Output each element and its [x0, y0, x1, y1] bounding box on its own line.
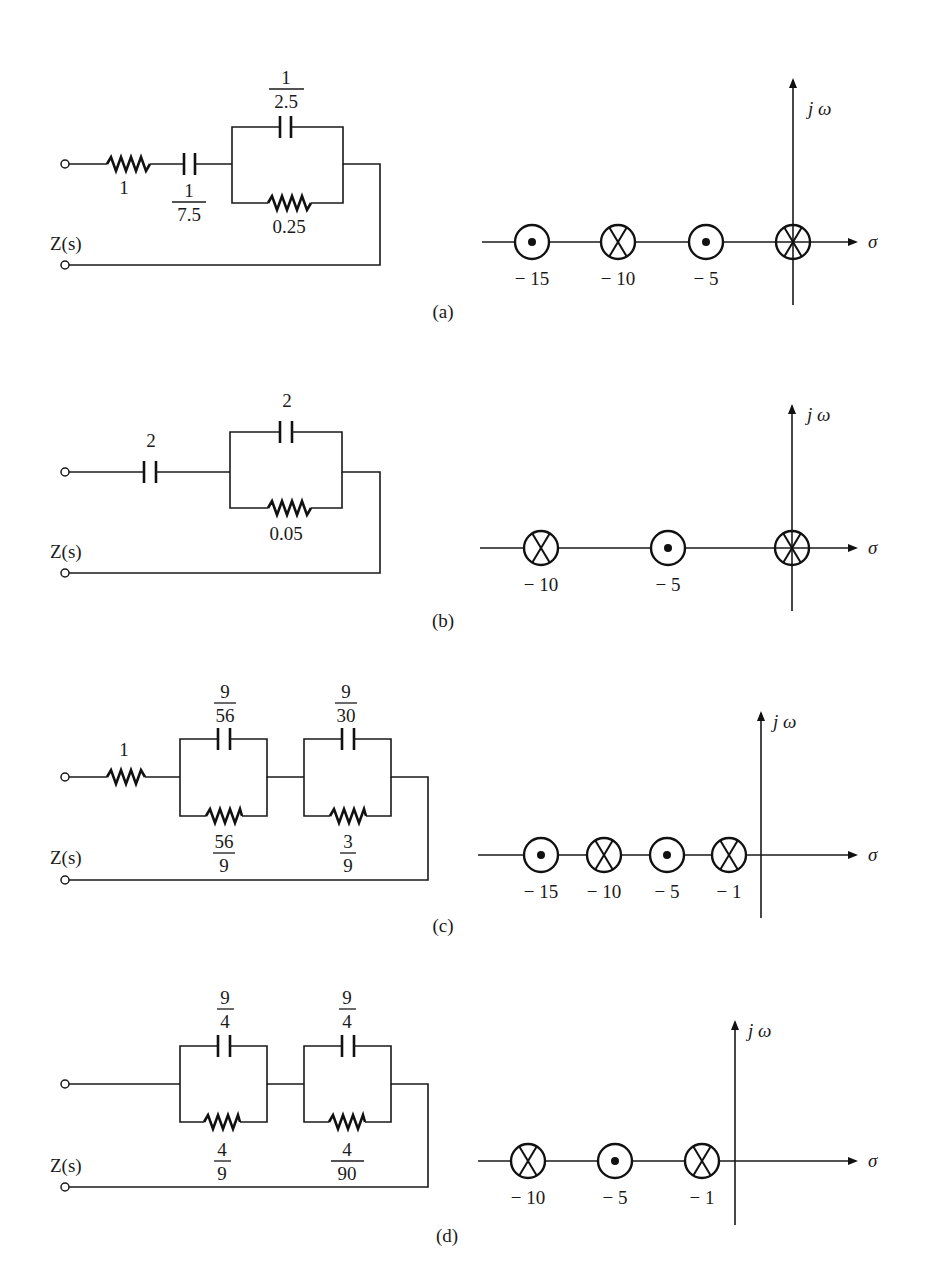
real-axis-label: σ	[868, 844, 878, 865]
resistor-icon	[268, 196, 311, 210]
terminal-icon	[61, 261, 69, 269]
pole-zero-plot-b: j ω σ − 10 − 5	[480, 404, 878, 611]
capacitor-2-den: 4	[342, 1011, 352, 1032]
pole-marker	[511, 1144, 545, 1178]
figure-canvas: 1 1 7.5 1 2.5 0.25 Z(s) j ω σ − 15 − 10 …	[0, 0, 926, 1272]
pole-marker	[587, 838, 621, 872]
capacitor-2-num: 9	[342, 987, 352, 1008]
terminal-icon	[61, 1183, 69, 1191]
tick-label: − 1	[690, 1187, 715, 1208]
circuit-c: 1 9 56 9 30 56 9 3 9 Z(s)	[50, 681, 428, 884]
imag-axis-label: j ω	[805, 98, 831, 119]
resistor-icon	[107, 770, 145, 784]
resistor-1-num: 4	[217, 1139, 227, 1160]
pole-marker	[601, 225, 635, 259]
impedance-label: Z(s)	[50, 847, 82, 869]
resistor-icon	[329, 1115, 365, 1129]
part-c: 1 9 56 9 30 56 9 3 9 Z(s) j ω σ − 15 − 1…	[50, 681, 878, 937]
resistor-2-num: 3	[343, 831, 353, 852]
resistor-icon	[204, 1115, 240, 1129]
pole-marker	[712, 838, 746, 872]
terminal-icon	[61, 773, 69, 781]
caption-c: (c)	[432, 915, 453, 937]
impedance-label: Z(s)	[50, 233, 82, 255]
terminal-icon	[61, 876, 69, 884]
parallel-resistor-value: 0.05	[269, 523, 302, 544]
pole-zero-plot-d: j ω σ − 10 − 5 − 1	[478, 1020, 878, 1225]
tick-label: − 10	[601, 268, 635, 289]
parallel-capacitor-den: 2.5	[274, 91, 298, 112]
tick-label: − 15	[515, 268, 549, 289]
capacitor-2-den: 30	[337, 705, 356, 726]
caption-a: (a)	[432, 301, 453, 323]
zero-marker	[524, 838, 558, 872]
zero-marker	[598, 1144, 632, 1178]
series-resistor-value: 1	[119, 739, 129, 760]
tick-label: − 5	[655, 881, 680, 902]
capacitor-1-num: 9	[220, 987, 230, 1008]
tick-label: − 10	[524, 574, 558, 595]
imag-axis-label: j ω	[745, 1020, 771, 1041]
part-b: 2 2 0.05 Z(s) j ω σ − 10 − 5 (b)	[50, 390, 878, 632]
pole-zero-plot-a: j ω σ − 15 − 10 − 5	[482, 80, 878, 305]
caption-b: (b)	[432, 610, 454, 632]
terminal-icon	[61, 160, 69, 168]
parallel-capacitor-value: 2	[282, 390, 292, 411]
part-a: 1 1 7.5 1 2.5 0.25 Z(s) j ω σ − 15 − 10 …	[50, 67, 878, 323]
capacitor-1-den: 4	[220, 1011, 230, 1032]
capacitor-1-den: 56	[216, 705, 235, 726]
zero-marker	[650, 838, 684, 872]
resistor-icon	[330, 809, 366, 823]
terminal-icon	[61, 1080, 69, 1088]
caption-d: (d)	[436, 1225, 458, 1247]
terminal-icon	[61, 569, 69, 577]
series-resistor-value: 1	[119, 177, 129, 198]
circuit-a: 1 1 7.5 1 2.5 0.25 Z(s)	[50, 67, 380, 269]
resistor-icon	[107, 157, 150, 171]
capacitor-2-num: 9	[341, 681, 351, 702]
impedance-label: Z(s)	[50, 541, 82, 563]
resistor-2-num: 4	[342, 1139, 352, 1160]
zero-marker	[515, 225, 549, 259]
real-axis-label: σ	[868, 537, 878, 558]
resistor-icon	[268, 501, 311, 515]
zero-marker	[689, 225, 723, 259]
series-capacitor-num: 1	[184, 180, 194, 201]
series-capacitor-den: 7.5	[177, 204, 201, 225]
resistor-2-den: 90	[338, 1163, 357, 1184]
part-d: 9 4 9 4 4 9 4 90 Z(s) j ω σ − 10 − 5 − 1	[50, 987, 878, 1247]
circuit-b: 2 2 0.05 Z(s)	[50, 390, 380, 577]
imag-axis-label: j ω	[804, 404, 830, 425]
tick-label: − 10	[511, 1187, 545, 1208]
tick-label: − 5	[694, 268, 719, 289]
resistor-1-num: 56	[215, 831, 234, 852]
capacitor-1-num: 9	[220, 681, 230, 702]
pole-marker	[685, 1144, 719, 1178]
circuit-d: 9 4 9 4 4 9 4 90 Z(s)	[50, 987, 428, 1191]
resistor-icon	[206, 809, 242, 823]
tick-label: − 15	[524, 881, 558, 902]
resistor-2-den: 9	[343, 855, 353, 876]
series-capacitor-value: 2	[146, 430, 156, 451]
real-axis-label: σ	[868, 1150, 878, 1171]
resistor-1-den: 9	[219, 855, 229, 876]
terminal-icon	[61, 468, 69, 476]
parallel-resistor-value: 0.25	[272, 216, 305, 237]
resistor-1-den: 9	[217, 1163, 227, 1184]
pole-zero-plot-c: j ω σ − 15 − 10 − 5 − 1	[478, 711, 878, 918]
zero-marker	[651, 531, 685, 565]
tick-label: − 5	[603, 1187, 628, 1208]
real-axis-label: σ	[868, 231, 878, 252]
parallel-capacitor-num: 1	[281, 67, 291, 88]
pole-marker	[524, 531, 558, 565]
imag-axis-label: j ω	[770, 711, 796, 732]
impedance-label: Z(s)	[50, 1155, 82, 1177]
tick-label: − 1	[717, 881, 742, 902]
tick-label: − 5	[656, 574, 681, 595]
tick-label: − 10	[587, 881, 621, 902]
